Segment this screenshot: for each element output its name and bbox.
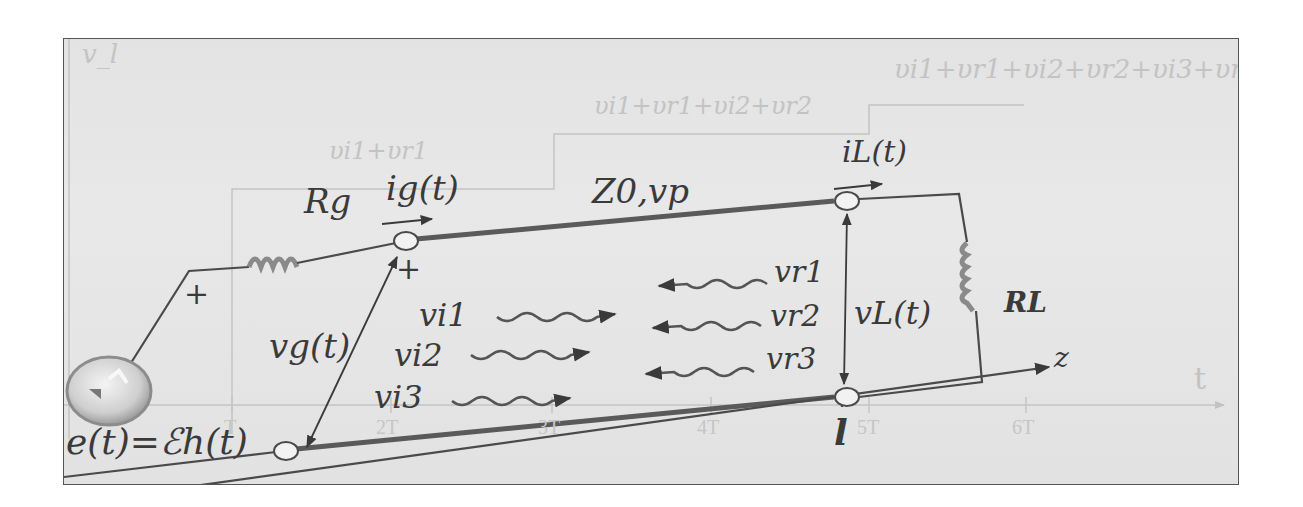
- chart-x-label: t: [1194, 364, 1206, 394]
- terminal-load-top: [835, 192, 859, 210]
- reflected-label-1: vr1: [774, 257, 824, 287]
- source-polarity-plus: +: [184, 279, 209, 309]
- voltage-source-icon: [67, 357, 151, 425]
- step-label-1: υi1+υr1: [329, 139, 428, 163]
- load-wire: [859, 194, 967, 242]
- tick-6T: 6T: [1012, 417, 1034, 437]
- load-resistor: [962, 243, 973, 311]
- terminal-gen-bottom: [274, 442, 298, 460]
- incident-wave-1: [497, 313, 615, 321]
- tick-2T: 2T: [376, 417, 398, 437]
- vl-arrow: [844, 214, 847, 384]
- step-label-3: υi1+υr1+υi2+υr2+υi3+υr3: [894, 56, 1239, 82]
- z-axis-label: z: [1054, 344, 1069, 372]
- reflected-wave-2: [653, 322, 761, 330]
- terminal-load-bottom: [835, 388, 859, 406]
- il-label: iL(t): [842, 137, 907, 167]
- reflected-wave-3: [646, 368, 754, 376]
- vl-label: vL(t): [854, 297, 931, 329]
- ig-arrow: [382, 219, 432, 224]
- rg-label: Rg: [304, 184, 351, 218]
- reflected-wave-1: [659, 280, 767, 288]
- gen-terminal-plus: +: [396, 254, 421, 284]
- z-axis: [194, 367, 1049, 485]
- reflected-label-2: vr2: [770, 301, 820, 331]
- ig-label: ig(t): [386, 171, 459, 205]
- incident-label-2: vi2: [394, 339, 443, 371]
- rl-label: RL: [1004, 289, 1047, 317]
- source-equation: e(t)=ℰh(t): [66, 424, 248, 460]
- line-params-label: Z0,vp: [592, 174, 689, 208]
- il-arrow: [834, 184, 882, 189]
- incident-wave-2: [471, 351, 589, 359]
- incident-label-3: vi3: [374, 381, 423, 413]
- generator-resistor: [249, 259, 297, 267]
- chart-y-label: v_l: [82, 41, 118, 67]
- terminal-gen-top: [394, 232, 418, 250]
- step-label-2: υi1+υr1+υi2+υr2: [594, 94, 812, 118]
- tick-3T: 3T: [538, 417, 560, 437]
- tick-4T: 4T: [697, 417, 719, 437]
- incident-label-1: vi1: [419, 299, 468, 331]
- diagram-frame: v_l t υi1+υr1 υi1+υr1+υi2+υr2 υi1+υr1+υi…: [63, 38, 1239, 485]
- length-label: l: [834, 414, 848, 450]
- reflected-label-3: vr3: [766, 344, 816, 374]
- tick-5T: 5T: [857, 417, 879, 437]
- vg-label: vg(t): [269, 329, 350, 363]
